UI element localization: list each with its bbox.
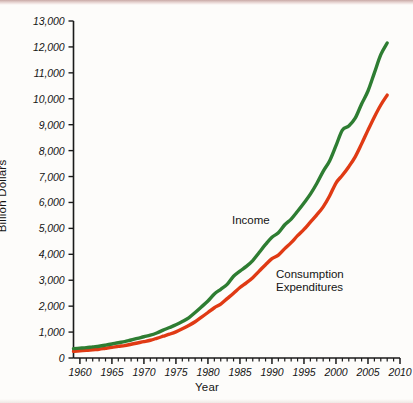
- x-tick-label: 1965: [100, 366, 123, 378]
- y-axis-title: Billion Dollars: [0, 160, 8, 233]
- x-tick-label: 1995: [292, 366, 315, 378]
- x-tick-label: 2000: [324, 366, 347, 378]
- y-tick-label: 9,000: [0, 119, 65, 131]
- y-tick-label: 12,000: [0, 41, 65, 53]
- y-tick-label: 6,000: [0, 196, 65, 208]
- y-tick-label: 5,000: [0, 222, 65, 234]
- y-tick-label: 10,000: [0, 93, 65, 105]
- x-tick-label: 1975: [164, 366, 187, 378]
- y-tick-label: 4,000: [0, 248, 65, 260]
- y-tick-label: 0: [0, 352, 65, 364]
- income-line: [74, 43, 388, 349]
- income-series-label: Income: [232, 214, 270, 227]
- x-tick-label: 1980: [196, 366, 219, 378]
- x-axis-title: Year: [195, 381, 219, 393]
- x-tick-label: 1990: [260, 366, 283, 378]
- chart-figure: 13,00012,00011,00010,0009,0008,0007,0006…: [0, 0, 413, 403]
- x-tick-label: 1985: [228, 366, 251, 378]
- y-tick-label: 7,000: [0, 171, 65, 183]
- y-tick-label: 1,000: [0, 326, 65, 338]
- y-tick-label: 3,000: [0, 274, 65, 286]
- x-axis-major-ticks: [80, 358, 400, 364]
- consumption-series-label-line1: Consumption: [276, 268, 344, 281]
- y-tick-label: 13,000: [0, 15, 65, 27]
- x-tick-label: 2010: [389, 366, 412, 378]
- x-tick-label: 1970: [132, 366, 155, 378]
- x-tick-label: 2005: [357, 366, 380, 378]
- x-tick-label: 1960: [68, 366, 91, 378]
- y-tick-label: 8,000: [0, 145, 65, 157]
- consumption-series-label: Consumption Expenditures: [276, 268, 344, 294]
- y-tick-label: 2,000: [0, 300, 65, 312]
- y-tick-label: 11,000: [0, 67, 65, 79]
- consumption-series-label-line2: Expenditures: [276, 281, 344, 294]
